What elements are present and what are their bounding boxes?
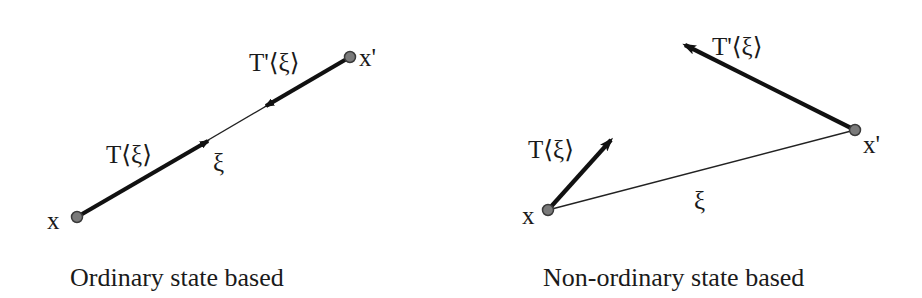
label-x-prime: x' — [863, 132, 880, 157]
node-x-prime — [850, 125, 861, 136]
label-x: x — [522, 203, 535, 228]
label-T-prime: T'⟨ξ⟩ — [712, 34, 762, 59]
node-x — [72, 212, 83, 223]
label-xi: ξ — [694, 188, 705, 213]
ordinary-panel — [72, 52, 356, 223]
label-T-prime: T'⟨ξ⟩ — [249, 50, 299, 75]
caption-non-ordinary: Non-ordinary state based — [543, 265, 804, 291]
node-x — [543, 205, 554, 216]
peridynamics-diagram: x x' T⟨ξ⟩ T'⟨ξ⟩ ξ Ordinary state based x… — [0, 0, 922, 298]
label-T: T⟨ξ⟩ — [528, 137, 574, 162]
node-x-prime — [345, 52, 356, 63]
force-Tprime-arrow — [685, 45, 855, 130]
label-x-prime: x' — [359, 45, 376, 70]
label-xi: ξ — [213, 150, 224, 175]
label-x: x — [47, 208, 60, 233]
caption-ordinary: Ordinary state based — [70, 265, 284, 291]
label-T: T⟨ξ⟩ — [106, 142, 152, 167]
